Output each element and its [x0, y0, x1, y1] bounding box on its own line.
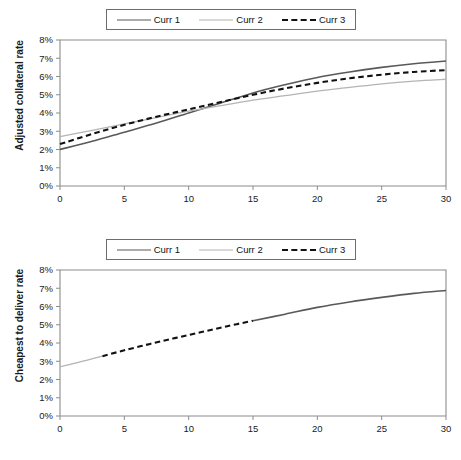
x-tick-label: 20: [312, 193, 323, 204]
chart-panel-cheapest-to-deliver-rate: Curr 1 Curr 2 Curr 3 0%1%2%3%4%5%6%7%8%0…: [0, 230, 461, 460]
legend-label-curr-2: Curr 2: [236, 245, 262, 255]
plot-svg-cheapest-to-deliver-rate: 0%1%2%3%4%5%6%7%8%051015202530: [0, 264, 461, 434]
plot-svg-adjusted-collateral-rate: 0%1%2%3%4%5%6%7%8%051015202530: [0, 34, 461, 204]
x-tick-label: 25: [376, 193, 387, 204]
data-series-curr-3-segment: [102, 321, 253, 356]
y-tick-label: 1%: [39, 162, 53, 173]
legend-entry-curr-1: Curr 1: [117, 245, 180, 255]
legend-line-swatch-curr-2: [199, 15, 233, 24]
y-tick-label: 3%: [39, 126, 53, 137]
legend-line-swatch-curr-2: [199, 245, 233, 254]
legend-line-swatch-curr-3: [282, 245, 316, 254]
y-tick-label: 8%: [39, 34, 53, 45]
chart-panel-adjusted-collateral-rate: Curr 1 Curr 2 Curr 3 0%1%2%3%4%5%6%7%8%0…: [0, 0, 461, 230]
y-tick-label: 3%: [39, 356, 53, 367]
legend-label-curr-3: Curr 3: [319, 245, 345, 255]
legend-top: Curr 1 Curr 2 Curr 3: [106, 9, 356, 30]
x-tick-label: 5: [122, 423, 127, 434]
x-tick-label: 10: [183, 193, 194, 204]
data-series-curr-1-segment: [253, 290, 446, 320]
legend-entry-curr-3: Curr 3: [282, 15, 345, 25]
plot-area-top: 0%1%2%3%4%5%6%7%8%051015202530 Adjusted …: [0, 34, 461, 204]
y-tick-label: 5%: [39, 319, 53, 330]
y-tick-label: 0%: [39, 180, 53, 191]
x-tick-label: 20: [312, 423, 323, 434]
x-tick-label: 30: [441, 193, 452, 204]
x-tick-label: 10: [183, 423, 194, 434]
legend-line-swatch-curr-1: [117, 15, 151, 24]
figure-container: Curr 1 Curr 2 Curr 3 0%1%2%3%4%5%6%7%8%0…: [0, 0, 461, 460]
legend-line-swatch-curr-3: [282, 15, 316, 24]
x-tick-label: 30: [441, 423, 452, 434]
x-tick-label: 5: [122, 193, 127, 204]
y-axis-title-bottom: Cheapest to deliver rate: [14, 251, 25, 401]
y-tick-label: 5%: [39, 89, 53, 100]
legend-bottom: Curr 1 Curr 2 Curr 3: [106, 239, 356, 260]
x-tick-label: 0: [57, 423, 62, 434]
y-tick-label: 8%: [39, 264, 53, 275]
y-tick-label: 6%: [39, 301, 53, 312]
data-series-curr-2: [60, 79, 446, 136]
y-tick-label: 4%: [39, 107, 53, 118]
y-tick-label: 0%: [39, 410, 53, 421]
legend-label-curr-3: Curr 3: [319, 15, 345, 25]
legend-label-curr-1: Curr 1: [154, 245, 180, 255]
legend-entry-curr-2: Curr 2: [199, 15, 262, 25]
data-series-curr-3: [60, 70, 446, 144]
y-tick-label: 1%: [39, 392, 53, 403]
legend-entry-curr-3: Curr 3: [282, 245, 345, 255]
legend-label-curr-2: Curr 2: [236, 15, 262, 25]
x-tick-label: 15: [248, 423, 259, 434]
x-tick-label: 0: [57, 193, 62, 204]
y-tick-label: 4%: [39, 337, 53, 348]
y-tick-label: 7%: [39, 283, 53, 294]
legend-entry-curr-1: Curr 1: [117, 15, 180, 25]
y-tick-label: 2%: [39, 374, 53, 385]
y-tick-label: 2%: [39, 144, 53, 155]
legend-label-curr-1: Curr 1: [154, 15, 180, 25]
x-tick-label: 15: [248, 193, 259, 204]
y-tick-label: 6%: [39, 71, 53, 82]
y-axis-title-top: Adjusted collateral rate: [14, 21, 25, 171]
legend-line-swatch-curr-1: [117, 245, 151, 254]
x-tick-label: 25: [376, 423, 387, 434]
legend-entry-curr-2: Curr 2: [199, 245, 262, 255]
plot-area-bottom: 0%1%2%3%4%5%6%7%8%051015202530 Cheapest …: [0, 264, 461, 434]
y-tick-label: 7%: [39, 53, 53, 64]
data-series-curr-2-segment: [60, 356, 102, 367]
